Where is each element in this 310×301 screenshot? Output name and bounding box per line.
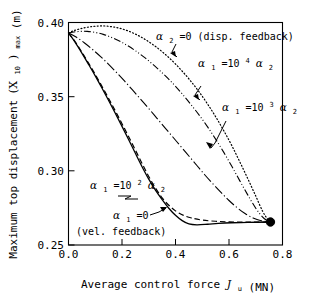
alpha-sub-1c: 1 (235, 108, 239, 116)
ann-eq10-d: =10 (113, 180, 131, 191)
alpha-sub-1d: 1 (103, 186, 107, 194)
x-axis-symbol-sub: u (238, 285, 242, 293)
ann-eq0-e: =0 (136, 210, 148, 221)
y-axis-unit: (m) (10, 9, 23, 29)
x-axis-title-main: Average control force (81, 278, 220, 291)
y-tick-label-2: 0.35 (38, 91, 65, 104)
y-tick-label-3: 0.40 (38, 17, 65, 30)
x-axis-symbol: J (225, 278, 232, 291)
y-tick-label-1: 0.30 (38, 165, 65, 178)
ann-sup-2: 2 (137, 179, 141, 187)
y-axis-symbol-open: (X (7, 81, 20, 93)
alpha-sub-1e: 1 (126, 216, 130, 224)
alpha-glyph-2b: α (256, 57, 263, 69)
y-axis-title-main: Maximum top displacement (7, 100, 20, 259)
y-axis-symbol-sub: 10 (14, 66, 22, 74)
ann-disp-fb: (disp. feedback) (197, 31, 293, 42)
x-tick-label-4: 0.8 (273, 248, 293, 261)
ann-eq10-b: =10 (221, 58, 239, 69)
alpha-glyph-3: α (222, 101, 229, 113)
alpha-sub-1b: 1 (211, 64, 215, 72)
alpha-glyph-4: α (90, 179, 97, 191)
chart-background (0, 0, 310, 301)
line-chart-svg: 0.0 0.2 0.4 0.6 0.8 0.25 0.30 0.35 0.40 … (0, 0, 310, 301)
x-tick-label-2: 0.4 (166, 248, 186, 261)
alpha-glyph-1: α (156, 30, 163, 42)
ann-eq10-c: =10 (245, 102, 263, 113)
x-tick-label-1: 0.2 (112, 248, 132, 261)
ann-sup-3: 3 (269, 101, 273, 109)
ann-sup-4: 4 (245, 57, 249, 65)
ann-vel-fb: (vel. feedback) (76, 226, 166, 237)
ann-eq0-a: =0 (179, 31, 191, 42)
y-axis-symbol-close: ) (7, 55, 20, 59)
alpha-glyph-3b: α (280, 101, 287, 113)
y-tick-label-0: 0.25 (38, 239, 65, 252)
alpha-sub-2c: 2 (293, 108, 297, 116)
y-axis-symbol-sub2: max (14, 36, 22, 49)
x-tick-label-3: 0.6 (219, 248, 239, 261)
alpha-glyph-5: α (113, 209, 120, 221)
endpoint-marker-dot (266, 218, 274, 226)
x-axis-unit: (MN) (249, 281, 276, 294)
alpha-sub-2b: 2 (269, 64, 273, 72)
chart-figure: 0.0 0.2 0.4 0.6 0.8 0.25 0.30 0.35 0.40 … (0, 0, 310, 301)
alpha-glyph-2: α (198, 57, 205, 69)
alpha-glyph-4b: α (148, 179, 155, 191)
alpha-sub-2d: 2 (161, 186, 165, 194)
alpha-sub-2a: 2 (169, 37, 173, 45)
